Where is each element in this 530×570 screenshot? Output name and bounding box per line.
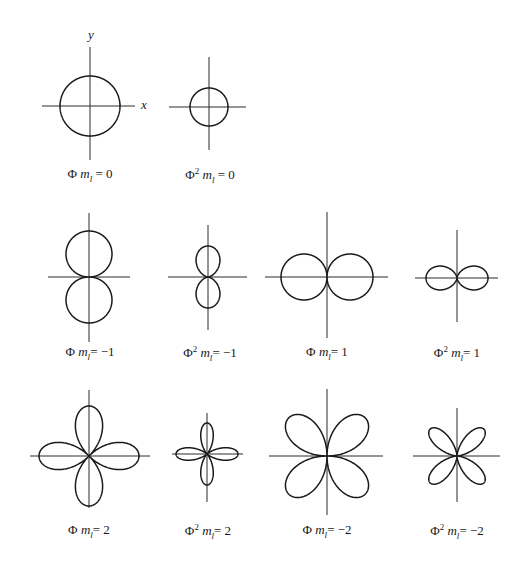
m-symbol: m (200, 345, 209, 360)
square-superscript: 2 (194, 522, 199, 532)
m-symbol: m (78, 344, 87, 359)
phi-symbol: Φ (68, 522, 78, 537)
m-symbol: m (319, 344, 328, 359)
label-phi-m-minus2: Φ ml= −2 (302, 522, 351, 540)
m-symbol: m (203, 167, 212, 182)
equation-value: = −1 (90, 344, 114, 359)
phi-symbol: Φ (65, 344, 75, 359)
phi-symbol: Φ (302, 522, 312, 537)
square-superscript: 2 (193, 344, 198, 354)
polar-plot-phi-m2 (30, 390, 150, 508)
plots-layer (30, 47, 500, 515)
m-symbol: m (80, 166, 89, 181)
polar-plot-phi2-m-1 (168, 225, 247, 330)
phi-symbol: Φ (185, 167, 195, 182)
polar-plot-phi2-m0 (169, 57, 246, 150)
label-phi2-m1: Φ2 ml= 1 (434, 344, 480, 363)
square-superscript: 2 (440, 522, 445, 532)
polar-plot-phi-m1 (265, 212, 388, 338)
phi-symbol: Φ (430, 523, 440, 538)
label-phi2-m2: Φ2 ml= 2 (185, 522, 231, 541)
phi-symbol: Φ (306, 344, 316, 359)
square-superscript: 2 (195, 166, 200, 176)
label-phi2-m0: Φ2 ml = 0 (185, 166, 235, 185)
phi-symbol: Φ (183, 345, 193, 360)
x-axis-label: x (141, 97, 147, 113)
equation-value: = 1 (331, 344, 348, 359)
m-symbol: m (315, 522, 324, 537)
equation-value: = −2 (327, 522, 351, 537)
m-symbol: m (447, 523, 456, 538)
label-phi-m2: Φ ml= 2 (68, 522, 110, 540)
polar-plot-phi2-m2 (172, 413, 243, 502)
equation-value: = 2 (214, 523, 231, 538)
polar-plot-phi-m0 (42, 47, 135, 160)
equation-value: = 0 (92, 166, 112, 181)
phi-symbol: Φ (434, 345, 444, 360)
equation-value: = −2 (459, 523, 483, 538)
equation-value: = 1 (463, 345, 480, 360)
label-phi-m-minus1: Φ ml= −1 (65, 344, 114, 362)
equation-value: = 2 (93, 522, 110, 537)
polar-plot-phi-m-1 (48, 213, 130, 342)
polar-plots-figure (0, 0, 530, 570)
polar-plot-phi2-m1 (415, 230, 498, 322)
square-superscript: 2 (443, 344, 448, 354)
phi-symbol: Φ (185, 523, 195, 538)
equation-value: = 0 (214, 167, 234, 182)
m-symbol: m (81, 522, 90, 537)
m-symbol: m (202, 523, 211, 538)
m-symbol: m (451, 345, 460, 360)
equation-value: = −1 (212, 345, 236, 360)
label-phi2-m-minus2: Φ2 ml= −2 (430, 522, 484, 541)
polar-plot-phi2-m-2 (413, 408, 500, 502)
label-phi-m0: Φ ml = 0 (67, 166, 112, 184)
y-axis-label: y (88, 27, 94, 43)
polar-plot-phi-m-2 (269, 389, 383, 515)
label-phi2-m-minus1: Φ2 ml= −1 (183, 344, 237, 363)
label-phi-m1: Φ ml= 1 (306, 344, 348, 362)
phi-symbol: Φ (67, 166, 77, 181)
